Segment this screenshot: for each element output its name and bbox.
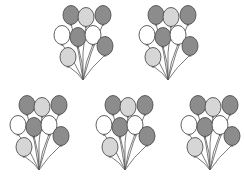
balloon-icon <box>181 116 197 136</box>
balloon-icon <box>51 96 67 116</box>
balloon-icon <box>34 98 50 118</box>
balloon-icon <box>97 37 113 57</box>
balloon-bunch-5 <box>177 90 241 174</box>
balloon-icon <box>182 37 198 57</box>
balloon-icon <box>19 96 35 116</box>
balloon-icon <box>163 8 179 28</box>
balloon-icon <box>10 116 26 136</box>
balloon-string <box>153 66 168 80</box>
balloon-bunch-icon <box>92 90 156 174</box>
balloon-icon <box>78 8 94 28</box>
balloon-icon <box>53 127 69 147</box>
balloon-icon <box>102 138 118 158</box>
balloon-icon <box>139 26 155 46</box>
balloon-icon <box>187 138 203 158</box>
balloon-icon <box>120 98 136 118</box>
balloon-icon <box>139 127 155 147</box>
balloon-bunch-icon <box>6 90 70 174</box>
balloon-bunch-icon <box>177 90 241 174</box>
balloon-icon <box>60 48 76 68</box>
balloon-bunch-2 <box>135 0 199 84</box>
balloon-icon <box>63 6 79 26</box>
balloon-icon <box>105 96 121 116</box>
balloon-icon <box>145 48 161 68</box>
balloon-icon <box>95 6 111 26</box>
balloon-icon <box>222 96 238 116</box>
balloon-string <box>24 156 39 170</box>
balloon-bunch-icon <box>50 0 114 84</box>
balloon-icon <box>137 96 153 116</box>
balloon-string <box>195 156 210 170</box>
balloon-string <box>110 156 125 170</box>
balloon-bunch-1 <box>50 0 114 84</box>
balloon-icon <box>54 26 70 46</box>
balloon-icon <box>190 96 206 116</box>
balloon-icon <box>180 6 196 26</box>
balloon-icon <box>96 116 112 136</box>
balloon-bunch-4 <box>92 90 156 174</box>
balloon-icon <box>148 6 164 26</box>
balloon-string <box>68 66 83 80</box>
balloon-icon <box>224 127 240 147</box>
balloon-icon <box>16 138 32 158</box>
balloon-bunch-3 <box>6 90 70 174</box>
balloon-icon <box>205 98 221 118</box>
balloon-bunch-icon <box>135 0 199 84</box>
